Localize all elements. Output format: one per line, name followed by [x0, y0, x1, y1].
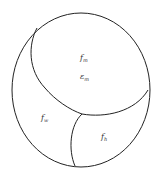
region-m-secondary-label: εm [80, 72, 89, 82]
region-h-label: fh [100, 132, 107, 142]
phase-diagram: fm εm fw fh [0, 0, 157, 178]
region-w-label: fw [40, 113, 49, 123]
inner-boundary-m [31, 28, 148, 115]
boundary-w-h [71, 114, 82, 166]
region-m-label: fm [79, 53, 88, 63]
outer-boundary [12, 13, 150, 167]
